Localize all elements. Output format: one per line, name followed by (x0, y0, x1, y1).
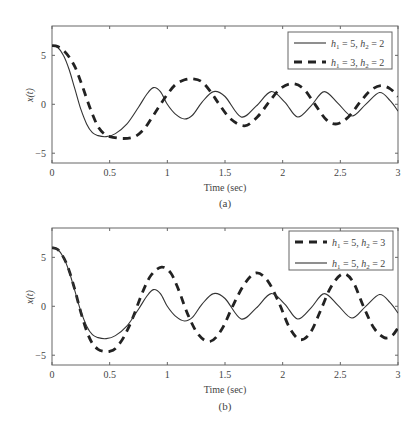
panel-caption: (a) (219, 197, 232, 210)
x-tick-label: 2 (280, 167, 285, 178)
legend: h1 = 5, h2 = 2h1 = 3, h2 = 2 (288, 32, 392, 70)
x-tick-label: 0.5 (103, 167, 116, 178)
x-tick-label: 2.5 (334, 167, 347, 178)
y-tick-label: 0 (41, 301, 46, 312)
panel-caption: (b) (219, 400, 232, 413)
chart-panel-a: 00.511.522.53−505h1 = 5, h2 = 2h1 = 3, h… (24, 26, 401, 210)
y-tick-label: −5 (35, 148, 46, 159)
plot-area: 00.511.522.53−505h1 = 5, h2 = 3h1 = 5, h… (35, 228, 400, 380)
y-tick-label: 5 (41, 252, 46, 263)
figure: 00.511.522.53−505h1 = 5, h2 = 2h1 = 3, h… (0, 0, 420, 430)
x-tick-label: 2.5 (334, 369, 347, 380)
y-axis-label: x(t) (24, 289, 36, 305)
chart-panel-b: 00.511.522.53−505h1 = 5, h2 = 3h1 = 5, h… (24, 228, 401, 413)
x-axis-label: Time (sec) (204, 384, 247, 396)
x-tick-label: 2 (280, 369, 285, 380)
x-axis-label: Time (sec) (204, 182, 247, 194)
y-axis-label: x(t) (24, 87, 36, 103)
x-tick-label: 3 (396, 369, 401, 380)
y-tick-label: −5 (35, 350, 46, 361)
legend: h1 = 5, h2 = 3h1 = 5, h2 = 2 (289, 231, 393, 271)
x-tick-label: 0 (50, 167, 55, 178)
x-tick-label: 1.5 (219, 167, 232, 178)
plot-area: 00.511.522.53−505h1 = 5, h2 = 2h1 = 3, h… (35, 26, 400, 178)
x-tick-label: 0.5 (103, 369, 116, 380)
x-tick-label: 0 (50, 369, 55, 380)
x-tick-label: 3 (396, 167, 401, 178)
y-tick-label: 0 (41, 99, 46, 110)
x-tick-label: 1.5 (219, 369, 232, 380)
x-tick-label: 1 (165, 167, 170, 178)
x-tick-label: 1 (165, 369, 170, 380)
y-tick-label: 5 (41, 50, 46, 61)
